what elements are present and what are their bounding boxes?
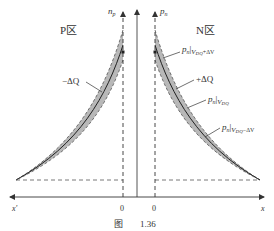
left-shaded-band: [16, 30, 123, 180]
pn-axis-label: pn: [159, 6, 168, 17]
figure-caption-prefix: 图: [114, 219, 123, 229]
minus-dq-label: −ΔQ: [62, 76, 80, 86]
origin-left-label: 0: [120, 204, 124, 213]
np-axis-label: np: [108, 6, 116, 17]
x-label: x: [260, 204, 265, 213]
x-prime-label: x': [11, 204, 18, 213]
origin-right-label: 0: [152, 204, 156, 213]
leader-upper: [163, 52, 180, 58]
pn-upper-label: pn|VDQ+ΔV: [181, 44, 215, 56]
p-region-label: P区: [60, 24, 77, 36]
diagram-canvas: P区 N区 np pn −ΔQ +ΔQ pn|VDQ+ΔV pn|VDQ pn|…: [0, 0, 274, 231]
figure-caption-number: 1.36: [140, 219, 156, 229]
n-region-label: N区: [196, 24, 215, 36]
left-curve-equilibrium: [16, 45, 123, 180]
leader-plus-dq: [176, 80, 194, 89]
pn-lower-label: pn|VDQ−ΔV: [221, 122, 255, 134]
plus-dq-label: +ΔQ: [196, 74, 214, 84]
left-curve-upper: [16, 30, 123, 180]
leader-lower: [205, 128, 220, 137]
leader-mid: [187, 100, 206, 108]
right-curve-equilibrium: [155, 45, 260, 180]
leader-minus-dq: [86, 82, 102, 92]
pn-mid-label: pn|VDQ: [207, 94, 229, 106]
